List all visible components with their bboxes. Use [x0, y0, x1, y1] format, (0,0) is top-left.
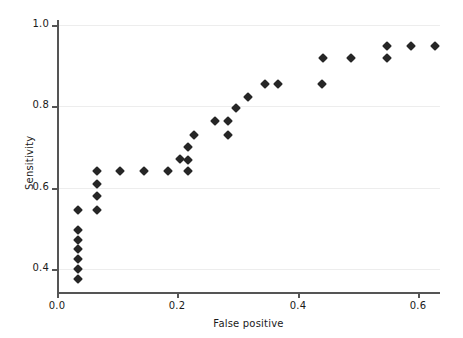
x-tick-label: 0.2: [157, 300, 197, 311]
data-point: [382, 53, 392, 63]
data-point: [139, 166, 149, 176]
data-point: [210, 116, 220, 126]
data-point: [92, 166, 102, 176]
data-point: [73, 245, 83, 255]
y-tick-label: 1.0: [17, 18, 49, 29]
data-point: [346, 53, 356, 63]
data-point: [243, 92, 253, 102]
data-point: [73, 264, 83, 274]
y-tick-mark: [52, 188, 57, 190]
gridline-y: [57, 106, 440, 107]
data-point: [231, 103, 241, 113]
x-tick-label: 0.6: [398, 300, 438, 311]
data-point: [318, 53, 328, 63]
x-tick-mark: [298, 293, 300, 298]
data-point: [430, 41, 440, 51]
x-tick-label: 0.4: [278, 300, 318, 311]
data-point: [73, 254, 83, 264]
data-point: [92, 191, 102, 201]
data-point: [382, 41, 392, 51]
data-point: [73, 274, 83, 284]
x-tick-mark: [57, 293, 59, 298]
data-point: [224, 130, 234, 140]
data-point: [406, 41, 416, 51]
data-point: [183, 142, 193, 152]
x-axis-title: False positive: [0, 318, 463, 329]
data-point: [73, 235, 83, 245]
y-tick-mark: [52, 269, 57, 271]
x-tick-mark: [418, 293, 420, 298]
data-point: [189, 130, 199, 140]
data-point: [317, 79, 327, 89]
data-point: [260, 79, 270, 89]
x-tick-mark: [177, 293, 179, 298]
data-point: [163, 166, 173, 176]
y-axis-line: [57, 20, 59, 292]
data-point: [273, 79, 283, 89]
data-point: [183, 155, 193, 165]
data-point: [224, 116, 234, 126]
roc-scatter-figure: 0.40.60.81.00.00.20.40.6 False positive …: [0, 0, 463, 338]
data-point: [92, 205, 102, 215]
gridline-y: [57, 188, 440, 189]
data-point: [73, 205, 83, 215]
x-axis-line: [57, 292, 440, 294]
y-tick-mark: [52, 106, 57, 108]
data-point: [73, 225, 83, 235]
x-tick-label: 0.0: [37, 300, 77, 311]
y-tick-label: 0.8: [17, 99, 49, 110]
y-tick-label: 0.4: [17, 262, 49, 273]
data-point: [183, 166, 193, 176]
gridline-y: [57, 269, 440, 270]
y-axis-title: Sensitivity: [24, 136, 35, 190]
y-tick-mark: [52, 25, 57, 27]
data-point: [115, 166, 125, 176]
gridline-y: [57, 25, 440, 26]
